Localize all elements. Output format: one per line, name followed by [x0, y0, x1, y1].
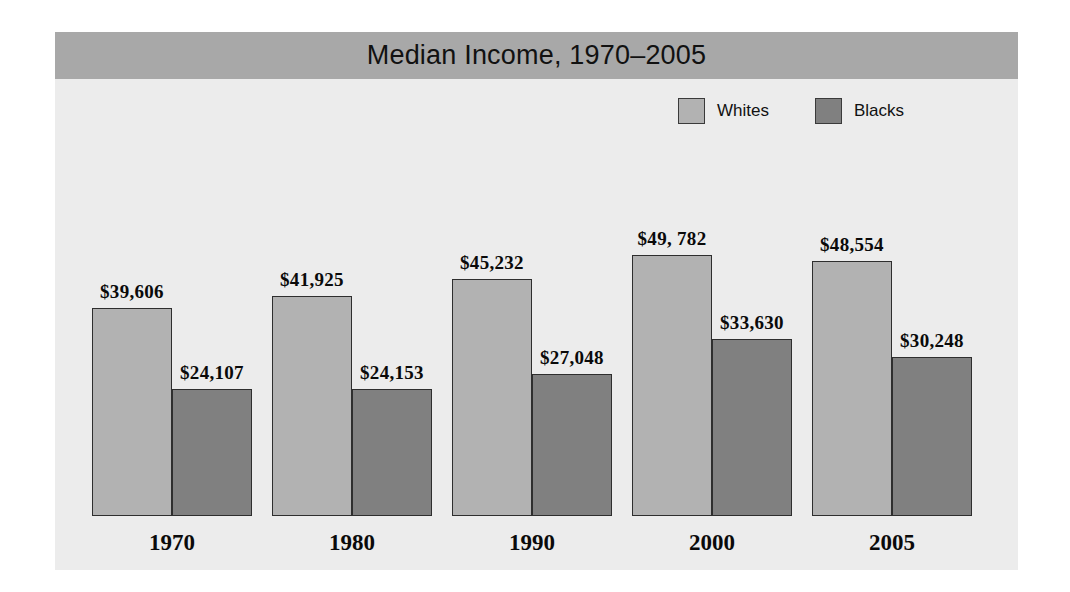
bar-value-label: $39,606	[86, 281, 178, 303]
bar-value-label: $30,248	[886, 330, 978, 352]
bar-group: $48,554$30,248	[812, 182, 972, 516]
bar-value-label: $48,554	[806, 234, 898, 256]
bar-whites-2000	[632, 255, 712, 516]
bar-value-label: $45,232	[446, 252, 538, 274]
bar-value-label: $41,925	[266, 269, 358, 291]
x-axis-tick-label: 2000	[632, 530, 792, 556]
bar-whites-1990	[452, 279, 532, 516]
x-axis-tick-label: 2005	[812, 530, 972, 556]
bar-blacks-2000	[712, 339, 792, 516]
x-axis-tick-label: 1990	[452, 530, 612, 556]
bar-group: $41,925$24,153	[272, 182, 432, 516]
bar-whites-2005	[812, 261, 892, 516]
bar-value-label: $49, 782	[626, 228, 718, 250]
chart-panel: Median Income, 1970–2005 Whites Blacks $…	[55, 32, 1018, 570]
bar-blacks-1970	[172, 389, 252, 516]
bar-value-label: $24,107	[166, 362, 258, 384]
bar-whites-1970	[92, 308, 172, 516]
bar-value-label: $27,048	[526, 347, 618, 369]
bar-blacks-2005	[892, 357, 972, 516]
bar-value-label: $24,153	[346, 362, 438, 384]
plot-area: $39,606$24,1071970$41,925$24,1531980$45,…	[55, 32, 1018, 570]
bar-value-label: $33,630	[706, 312, 798, 334]
x-axis-tick-label: 1980	[272, 530, 432, 556]
bar-group: $49, 782$33,630	[632, 182, 792, 516]
bar-group: $45,232$27,048	[452, 182, 612, 516]
bar-blacks-1980	[352, 389, 432, 516]
x-axis-tick-label: 1970	[92, 530, 252, 556]
bar-blacks-1990	[532, 374, 612, 516]
bar-group: $39,606$24,107	[92, 182, 252, 516]
bar-whites-1980	[272, 296, 352, 516]
